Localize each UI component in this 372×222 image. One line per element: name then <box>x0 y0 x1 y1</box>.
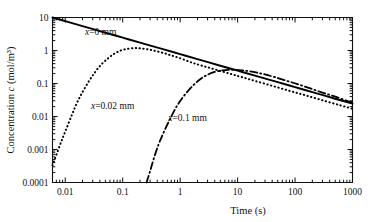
y-tick-label: 0.01 <box>32 112 49 122</box>
y-tick-label: 10 <box>39 13 49 23</box>
annotation-value: =0 mm <box>89 27 117 37</box>
x-tick-label: 0.1 <box>117 187 129 197</box>
y-tick-label: 0.0001 <box>22 178 48 188</box>
x-tick-label: 10 <box>233 187 243 197</box>
annotation-0: x=0 mm <box>84 27 117 37</box>
annotation-2: x=0.1 mm <box>167 113 207 123</box>
y-axis-title: Concentration c (mol/m³) <box>5 46 17 153</box>
x-tick-label: 1000 <box>343 187 362 197</box>
y-tick-label: 0.001 <box>27 145 49 155</box>
y-axis-title-prefix: Concentration <box>5 91 16 153</box>
y-tick-label: 0.1 <box>37 79 49 89</box>
x-axis-title: Time (s) <box>230 205 266 217</box>
annotation-1: x=0.02 mm <box>90 101 135 111</box>
y-axis-title-suffix: (mol/m³) <box>5 46 17 87</box>
x-tick-label: 1 <box>178 187 183 197</box>
y-axis-title-text: Concentration c (mol/m³) <box>5 46 17 153</box>
x-tick-label: 100 <box>288 187 303 197</box>
curve-x-0-1-mm <box>147 70 353 183</box>
concentration-vs-time-chart: 0.010.11101001000 0.00010.0010.010.1110 … <box>0 0 372 222</box>
annotation-value: =0.1 mm <box>172 113 207 123</box>
annotation-value: =0.02 mm <box>95 101 135 111</box>
x-axis-tick-labels: 0.010.11101001000 <box>57 187 362 197</box>
y-axis-tick-labels: 0.00010.0010.010.1110 <box>22 13 48 188</box>
figure-container: 0.010.11101001000 0.00010.0010.010.1110 … <box>0 0 372 222</box>
x-tick-label: 0.01 <box>57 187 74 197</box>
curve-annotations: x=0 mmx=0.02 mmx=0.1 mm <box>84 27 208 123</box>
y-tick-label: 1 <box>44 46 49 56</box>
